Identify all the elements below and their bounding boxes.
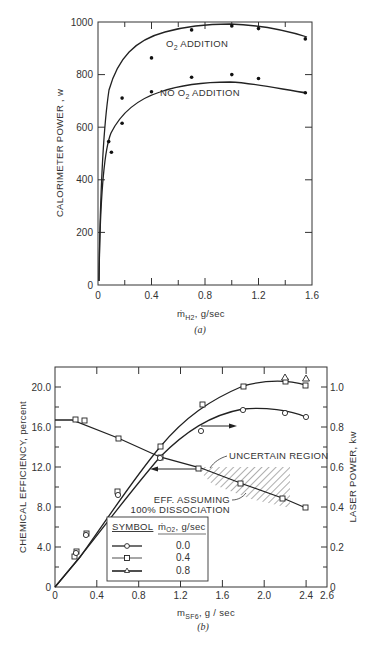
x-tick-label: 1.2 xyxy=(252,290,266,301)
y2-tick-label: 0.2 xyxy=(330,542,344,553)
x-tick-label: 1.6 xyxy=(305,290,319,301)
chart-b: 0 4.0 8.0 12.0 16.0 20.0 0 0.2 0.4 0.6 0… xyxy=(17,367,358,633)
y2-tick-label: 1.0 xyxy=(330,382,344,393)
no-o2-addition-label: NO O2 ADDITION xyxy=(160,87,240,100)
no-o2-addition-points xyxy=(110,73,308,154)
y2-tick-label: 0.8 xyxy=(330,422,344,433)
y-tick-label: 8.0 xyxy=(37,502,51,513)
square-marker-icon xyxy=(125,556,130,561)
y-tick-label: 20.0 xyxy=(32,382,52,393)
chart-a-x-axis-label: ṁH2, g/sec xyxy=(177,308,225,321)
x-tick-label: 1.6 xyxy=(215,590,229,601)
chart-b-right-y-axis-label: LASER POWER, kw xyxy=(347,431,358,522)
x-tick-label: 2.4 xyxy=(299,590,313,601)
chart-a-x-ticks xyxy=(98,22,312,285)
no-o2-addition-curve xyxy=(99,82,307,281)
y2-tick-label: 0.4 xyxy=(330,502,344,513)
x-tick-label: 0 xyxy=(52,590,58,601)
o2-addition-label: O2 ADDITION xyxy=(166,38,228,51)
chart-b-x-axis-label: mSF6, g / sec xyxy=(177,607,235,620)
legend-value: 0.0 xyxy=(176,540,190,551)
legend-header-value: ṁO2, g/sec xyxy=(158,521,206,533)
uncertain-region-leader xyxy=(210,456,227,468)
y-tick-label: 4.0 xyxy=(37,542,51,553)
legend-header-symbol: SYMBOL xyxy=(112,521,153,532)
y-tick-label: 16.0 xyxy=(32,422,52,433)
x-tick-label: 0.8 xyxy=(132,590,146,601)
circle-marker-icon xyxy=(125,544,130,549)
y-tick-label: 200 xyxy=(76,227,93,238)
chart-a-caption: (a) xyxy=(194,324,206,336)
chart-a-x-tick-labels: 0 0.4 0.8 1.2 1.6 xyxy=(95,290,319,301)
o2-addition-curve xyxy=(99,24,307,281)
y-tick-label: 800 xyxy=(76,69,93,80)
chart-b-x-tick-labels: 0 0.4 0.8 1.2 1.6 2.0 2.4 2.6 xyxy=(52,590,334,601)
x-tick-label: 0.4 xyxy=(145,290,159,301)
legend-value: 0.8 xyxy=(176,565,190,576)
chart-a: 0 200 400 600 800 1000 0 0.4 0.8 1.2 1.6… xyxy=(54,17,319,336)
chart-b-right-y-tick-labels: 0 0.2 0.4 0.6 0.8 1.0 xyxy=(330,382,344,593)
legend-value: 0.4 xyxy=(176,552,190,563)
uncertain-region-label: UNCERTAIN REGION xyxy=(229,450,328,461)
chart-a-y-axis-label: CALORIMETER POWER , w xyxy=(54,89,65,217)
arrow-to-left-axis xyxy=(150,467,197,472)
x-tick-label: 0.8 xyxy=(198,290,212,301)
dissociation-label: 100% DISSOCIATION xyxy=(131,504,230,515)
y-tick-label: 600 xyxy=(76,122,93,133)
y-tick-label: 1000 xyxy=(71,17,94,28)
figure: 0 200 400 600 800 1000 0 0.4 0.8 1.2 1.6… xyxy=(0,0,374,650)
x-tick-label: 2.0 xyxy=(257,590,271,601)
y2-tick-label: 0.6 xyxy=(330,462,344,473)
y-tick-label: 400 xyxy=(76,174,93,185)
x-tick-label: 0 xyxy=(95,290,101,301)
y-tick-label: 0 xyxy=(87,280,93,291)
chart-b-left-y-axis-label: CHEMICAL EFFICIENCY, percent xyxy=(17,401,28,553)
y-tick-label: 12.0 xyxy=(32,462,52,473)
x-tick-label: 0.4 xyxy=(90,590,104,601)
chart-b-caption: (b) xyxy=(197,621,209,633)
x-tick-label: 2.6 xyxy=(320,590,334,601)
chart-a-plot-frame xyxy=(98,22,312,285)
y-tick-label: 0 xyxy=(45,582,51,593)
laser-power-0.8-points xyxy=(282,374,310,381)
chart-a-y-tick-labels: 0 200 400 600 800 1000 xyxy=(71,17,94,291)
arrow-to-right-axis xyxy=(201,424,237,429)
legend: SYMBOL ṁO2, g/sec 0.0 0.4 0.8 xyxy=(107,517,208,581)
chart-b-left-y-tick-labels: 0 4.0 8.0 12.0 16.0 20.0 xyxy=(32,382,52,593)
x-tick-label: 1.2 xyxy=(174,590,188,601)
